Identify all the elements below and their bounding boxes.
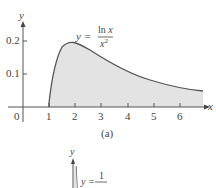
y-tick-label-0.1: 0.1 bbox=[6, 67, 20, 79]
y-tick-label-0.2: 0.2 bbox=[6, 34, 20, 46]
eq-b-numerator: 1 bbox=[99, 170, 104, 181]
y-axis-arrow-icon bbox=[21, 21, 26, 27]
caption-a: (a) bbox=[101, 127, 113, 139]
x-axis-label: x bbox=[208, 100, 213, 112]
eq-a-denominator: x2 bbox=[100, 37, 108, 49]
x-tick-label-0: 0 bbox=[14, 110, 20, 122]
x-tick-label-4: 4 bbox=[125, 110, 131, 122]
x-tick-label-5: 5 bbox=[151, 110, 157, 122]
shaded-area bbox=[49, 42, 203, 107]
x-tick-label-3: 3 bbox=[98, 110, 104, 122]
eq-b-lhs: y = bbox=[81, 176, 95, 187]
y-axis-label-b: y bbox=[70, 146, 74, 157]
y-axis-b-arrow-icon bbox=[71, 158, 75, 164]
eq-a-lhs: y = bbox=[76, 30, 91, 42]
x-tick-label-1: 1 bbox=[46, 110, 52, 122]
x-tick-label-6: 6 bbox=[177, 110, 183, 122]
eq-a-numerator: ln x bbox=[98, 24, 113, 35]
y-axis-label: y bbox=[19, 9, 24, 21]
x-tick-label-2: 2 bbox=[72, 110, 78, 122]
y-ticks bbox=[23, 41, 27, 74]
